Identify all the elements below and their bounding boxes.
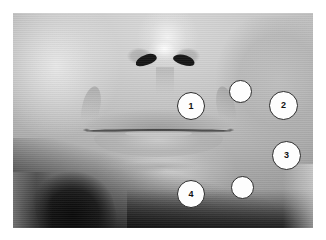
film-grain-overlay — [13, 13, 313, 228]
site-marker-3[interactable]: 3 — [272, 141, 301, 170]
figure-root: 1 2 3 4 — [0, 0, 326, 240]
site-marker-1[interactable]: 1 — [177, 92, 205, 120]
site-marker-unlabeled-upper[interactable] — [229, 80, 252, 103]
site-marker-unlabeled-lower[interactable] — [231, 176, 254, 199]
face-photograph: 1 2 3 4 — [13, 13, 313, 228]
site-marker-2[interactable]: 2 — [269, 91, 298, 120]
site-marker-4[interactable]: 4 — [177, 180, 205, 208]
